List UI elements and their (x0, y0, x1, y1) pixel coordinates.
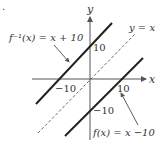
x-tick-neg10: −10 (55, 83, 76, 94)
function-label-pointer (121, 93, 138, 125)
y-tick-neg10: −10 (93, 105, 114, 116)
function-label: f(x) = x −10 (92, 127, 155, 138)
x-tick-10: 10 (117, 83, 130, 94)
identity-label: y = x (128, 22, 155, 33)
inverse-function-graph: . x y −10 10 10 −10 f⁻¹(x) = x + 10 y = … (0, 0, 165, 147)
inverse-label-pointer (54, 45, 69, 62)
x-axis-label: x (149, 73, 156, 86)
y-axis-label: y (86, 3, 94, 16)
function-line (65, 58, 143, 136)
y-tick-10: 10 (93, 42, 106, 53)
bullet: . (2, 1, 5, 12)
inverse-function-label: f⁻¹(x) = x + 10 (8, 32, 84, 43)
